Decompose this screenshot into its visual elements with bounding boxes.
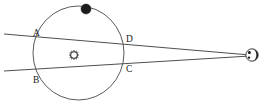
eclipse-geometry-figure: A B D C (0, 0, 267, 108)
diagram-canvas: A B D C (0, 0, 267, 108)
sun-icon (69, 50, 79, 60)
orbit-circle (33, 6, 124, 100)
vertex-label-c: C (126, 64, 132, 74)
vertex-label-b: B (33, 75, 39, 85)
vertex-label-d: D (126, 34, 133, 44)
vertex-label-a: A (33, 28, 40, 38)
moon-dot-icon (81, 4, 91, 14)
earth-icon (246, 49, 258, 61)
